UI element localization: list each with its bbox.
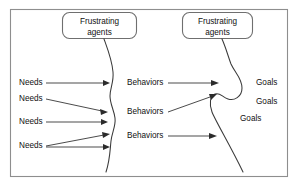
needs-label-2: Needs xyxy=(19,95,43,103)
barrier-left xyxy=(104,39,115,172)
needs-arrow-4-head xyxy=(102,132,110,138)
needs-arrow-2-head xyxy=(100,109,108,115)
behaviors-arrow-2-line xyxy=(168,97,210,112)
behaviors-label-1: Behaviors xyxy=(127,79,163,87)
diagram-graphics xyxy=(0,0,298,190)
agent-box-left-line2: agents xyxy=(62,28,137,39)
needs-label-1: Needs xyxy=(19,79,43,87)
diagram-canvas: Frustrating agents Frustrating agents Ne… xyxy=(0,0,298,190)
agent-box-right-line2: agents xyxy=(182,28,253,39)
behaviors-arrow-3-head xyxy=(209,133,217,139)
needs-label-3: Needs xyxy=(19,118,43,126)
goals-label-2: Goals xyxy=(256,98,277,106)
goals-label-1: Goals xyxy=(256,79,277,87)
needs-arrow-3-head xyxy=(101,119,108,125)
needs-arrow-4-line xyxy=(46,135,104,146)
behaviors-label-3: Behaviors xyxy=(127,132,163,140)
behaviors-arrow-2-head xyxy=(209,94,217,100)
goals-label-3: Goals xyxy=(240,115,261,123)
agent-box-left-line1: Frustrating xyxy=(62,17,137,28)
needs-arrow-2-line xyxy=(46,99,102,111)
agent-box-right-label: Frustrating agents xyxy=(182,17,253,38)
barrier-right xyxy=(210,39,243,172)
behaviors-arrow-1-head xyxy=(211,80,219,86)
behaviors-label-2: Behaviors xyxy=(127,108,163,116)
needs-arrow-1-head xyxy=(103,80,110,86)
agent-box-left-label: Frustrating agents xyxy=(62,17,137,38)
needs-label-4: Needs xyxy=(19,142,43,150)
needs-arrow-5-head xyxy=(103,144,110,150)
agent-box-right-line1: Frustrating xyxy=(182,17,253,28)
